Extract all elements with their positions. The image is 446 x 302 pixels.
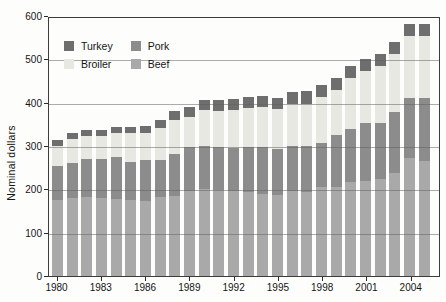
x-tick-label-1995: 1995 — [261, 282, 295, 293]
stacked-bar-2000 — [345, 66, 356, 276]
bar-segment-turkey — [316, 85, 327, 98]
bar-segment-pork — [360, 123, 371, 181]
x-tick-mark-1983 — [101, 277, 102, 281]
x-tick-mark-2001 — [366, 277, 367, 281]
x-tick-label-2001: 2001 — [349, 282, 383, 293]
stacked-bar-2004 — [404, 24, 415, 276]
bar-segment-pork — [243, 147, 254, 191]
bar-segment-turkey — [140, 126, 151, 134]
legend-swatch-broiler — [64, 59, 74, 69]
bar-segment-pork — [389, 112, 400, 173]
stacked-bar-2002 — [375, 54, 386, 276]
y-tick-label-400: 400 — [2, 98, 42, 109]
bar-segment-broiler — [169, 120, 180, 154]
stacked-bar-1984 — [111, 127, 122, 276]
bar-segment-turkey — [184, 107, 195, 117]
bar-segment-turkey — [169, 111, 180, 121]
bar-segment-beef — [257, 194, 268, 276]
bar-segment-broiler — [257, 107, 268, 147]
x-tick-mark-1995 — [278, 277, 279, 281]
x-tick-label-1989: 1989 — [172, 282, 206, 293]
stacked-bar-1988 — [169, 111, 180, 277]
bar-segment-pork — [272, 149, 283, 195]
bar-segment-pork — [345, 129, 356, 183]
gridline-300 — [49, 147, 439, 148]
stacked-bar-1997 — [301, 91, 312, 276]
bar-segment-pork — [67, 163, 78, 198]
y-tick-mark-0 — [44, 276, 48, 277]
bar-segment-pork — [404, 98, 415, 158]
bar-segment-broiler — [228, 110, 239, 149]
stacked-bar-1995 — [272, 98, 283, 276]
bar-segment-turkey — [199, 100, 210, 111]
bar-segment-broiler — [360, 71, 371, 123]
stacked-bar-1990 — [199, 100, 210, 276]
bar-segment-beef — [67, 198, 78, 276]
bar-segment-beef — [155, 197, 166, 276]
legend-swatch-pork — [131, 41, 141, 51]
x-tick-label-1998: 1998 — [305, 282, 339, 293]
legend: TurkeyPorkBroilerBeef — [64, 40, 169, 70]
bar-segment-turkey — [257, 96, 268, 107]
bar-segment-beef — [375, 179, 386, 276]
bar-segment-broiler — [111, 133, 122, 158]
bar-segment-broiler — [243, 108, 254, 147]
bar-segment-beef — [125, 200, 136, 276]
x-tick-mark-1986 — [145, 277, 146, 281]
bar-segment-beef — [96, 198, 107, 276]
bar-segment-broiler — [199, 110, 210, 145]
bar-segment-broiler — [213, 111, 224, 148]
legend-item-broiler: Broiler — [64, 58, 113, 70]
y-tick-mark-500 — [44, 59, 48, 60]
x-tick-label-1992: 1992 — [217, 282, 251, 293]
bar-segment-beef — [331, 187, 342, 276]
bar-segment-turkey — [419, 24, 430, 36]
x-tick-label-2004: 2004 — [394, 282, 428, 293]
x-tick-mark-1980 — [57, 277, 58, 281]
bar-segment-beef — [140, 201, 151, 276]
bar-segment-turkey — [345, 66, 356, 78]
bar-segment-pork — [419, 98, 430, 161]
stacked-bar-1992 — [228, 99, 239, 276]
bar-segment-beef — [404, 158, 415, 276]
y-tick-label-300: 300 — [2, 141, 42, 152]
legend-item-turkey: Turkey — [64, 40, 113, 52]
y-tick-label-200: 200 — [2, 184, 42, 195]
x-tick-label-1983: 1983 — [84, 282, 118, 293]
bar-segment-beef — [345, 182, 356, 276]
bar-segment-broiler — [404, 36, 415, 98]
legend-item-pork: Pork — [131, 40, 170, 52]
x-tick-mark-1989 — [189, 277, 190, 281]
stacked-bar-2001 — [360, 59, 371, 276]
bar-segment-pork — [111, 157, 122, 199]
bar-segment-beef — [419, 161, 430, 276]
gridline-100 — [49, 234, 439, 235]
bar-segment-pork — [125, 162, 136, 201]
bar-segment-pork — [375, 123, 386, 178]
bar-segment-pork — [228, 148, 239, 191]
bar-segment-pork — [301, 146, 312, 192]
x-tick-label-1980: 1980 — [40, 282, 74, 293]
bar-segment-beef — [316, 187, 327, 276]
bar-segment-pork — [184, 147, 195, 190]
bar-segment-beef — [111, 199, 122, 276]
bar-segment-pork — [96, 159, 107, 198]
plot-area: TurkeyPorkBroilerBeef — [48, 17, 440, 277]
x-tick-mark-2004 — [411, 277, 412, 281]
stacked-bar-1993 — [243, 97, 254, 276]
bar-segment-broiler — [67, 139, 78, 163]
bar-segment-pork — [257, 147, 268, 194]
bar-segment-broiler — [375, 66, 386, 124]
stacked-bar-1991 — [213, 100, 224, 276]
legend-label-broiler: Broiler — [81, 58, 111, 70]
stacked-bar-1999 — [331, 78, 342, 276]
bar-segment-turkey — [155, 120, 166, 129]
bar-segment-pork — [140, 160, 151, 201]
bar-segment-broiler — [155, 128, 166, 160]
legend-swatch-turkey — [64, 41, 74, 51]
bar-segment-turkey — [301, 91, 312, 103]
stacked-bar-1980 — [52, 140, 63, 276]
y-tick-label-100: 100 — [2, 228, 42, 239]
y-tick-mark-100 — [44, 233, 48, 234]
bar-segment-beef — [389, 173, 400, 276]
